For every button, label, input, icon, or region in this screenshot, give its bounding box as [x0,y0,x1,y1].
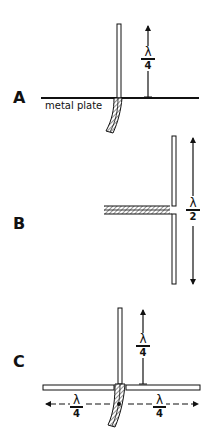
fraction-denominator: 2 [186,211,200,222]
quarter-wave-rod-c [118,308,122,384]
antenna-diagram: A B C metal plate λ 4 λ 2 λ 4 λ 4 λ 4 [0,0,212,447]
panel-c-drawing [43,308,200,427]
fraction-numerator: λ [136,333,150,345]
dipole-lower-element [172,214,176,284]
panel-label-a: A [13,90,25,106]
fraction-denominator: 4 [70,408,83,419]
radial-left [43,385,114,390]
quarter-wave-rod [117,24,121,98]
fraction-numerator: λ [70,394,83,406]
panel-a-drawing [41,24,199,133]
fraction-denominator: 4 [141,60,155,71]
dimension-label-b: λ 2 [186,197,200,222]
fraction-denominator: 4 [153,408,166,419]
dipole-upper-element [172,136,176,206]
metal-plate-label: metal plate [45,101,102,111]
dimension-label-c-left: λ 4 [70,394,83,419]
fraction-numerator: λ [141,46,155,58]
coax-feed [106,98,122,133]
panel-label-b: B [13,216,25,232]
dimension-label-c-right: λ 4 [153,394,166,419]
dimension-label-c-vertical: λ 4 [136,333,150,358]
fraction-numerator: λ [186,197,200,209]
panel-label-c: C [13,354,25,370]
dimension-label-a: λ 4 [141,46,155,71]
radial-right [126,385,200,390]
fraction-denominator: 4 [136,347,150,358]
panel-b-drawing [104,136,193,284]
antenna-diagram-drawing [0,0,212,447]
fraction-numerator: λ [153,394,166,406]
